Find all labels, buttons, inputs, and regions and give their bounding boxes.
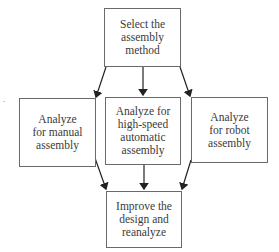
- node-label: Improve the design and reanalyze: [116, 200, 172, 239]
- node-label: Analyze for manual assembly: [32, 113, 82, 152]
- node-analyze-robot: Analyze for robot assembly: [191, 97, 268, 163]
- arrow-robot-to-improve: [182, 160, 191, 189]
- node-analyze-manual: Analyze for manual assembly: [19, 98, 96, 167]
- node-improve-design: Improve the design and reanalyze: [106, 191, 182, 248]
- arrow-select-to-robot: [180, 67, 190, 96]
- node-select-method: Select the assembly method: [104, 8, 181, 67]
- node-label: Select the assembly method: [120, 18, 165, 57]
- arrow-select-to-manual: [96, 67, 106, 97]
- node-label: Analyze for robot assembly: [208, 111, 251, 150]
- node-analyze-highspeed: Analyze for high-speed automatic assembl…: [105, 97, 181, 165]
- stray-mark: -: [3, 97, 5, 105]
- node-label: Analyze for high-speed automatic assembl…: [116, 105, 171, 157]
